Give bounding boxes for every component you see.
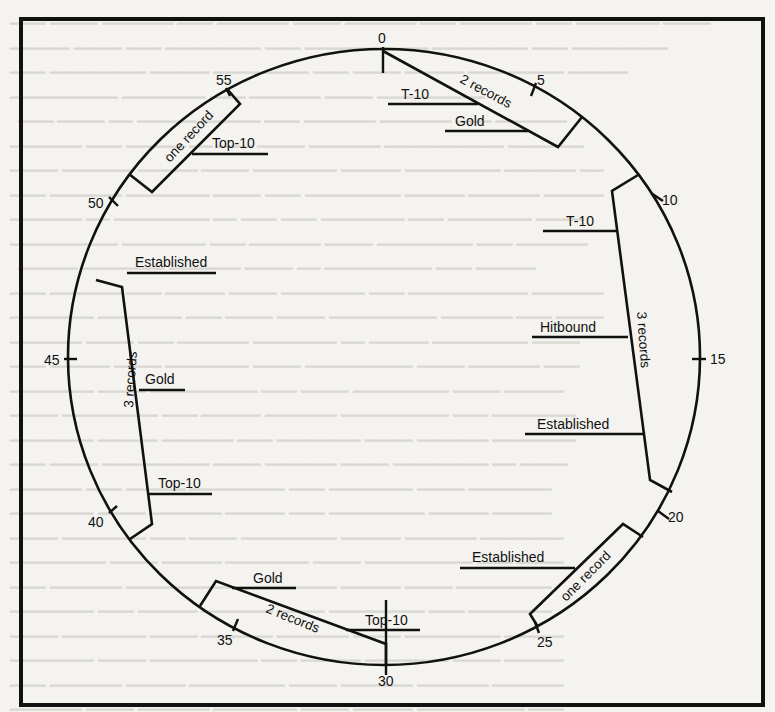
segment-2-item-3-label: Established	[537, 416, 609, 432]
tick-label-45: 45	[44, 352, 60, 368]
segment-5-three-records: 3 records Top-10 Gold Established	[96, 254, 216, 539]
clock-tick-labels: 0 5 10 15 20 25 30 35 40 45 50 55	[44, 30, 726, 689]
segment-4-item-2-label: Gold	[253, 570, 283, 586]
segment-4-two-records: 2 records Top-10 Gold	[200, 570, 420, 664]
tick-label-0: 0	[378, 30, 386, 46]
segment-5-item-3-label: Established	[135, 254, 207, 270]
segment-3-item-1-label: Established	[472, 549, 544, 565]
tick-label-50: 50	[88, 195, 104, 211]
segment-3-one-record: one record Established	[460, 524, 643, 627]
tick-label-15: 15	[710, 351, 726, 367]
segment-4-item-1-label: Top-10	[365, 612, 408, 628]
segment-6-one-record: one record Top-10	[129, 90, 268, 192]
clock-circle	[68, 49, 700, 665]
tick-label-55: 55	[216, 72, 232, 88]
segment-4-count-label: 2 records	[264, 601, 322, 636]
segment-1-count-label: 2 records	[458, 71, 515, 111]
segment-2-three-records: 3 records T-10 Hitbound Established	[525, 175, 672, 492]
format-clock-diagram: 0 5 10 15 20 25 30 35 40 45 50 55 2 reco…	[0, 0, 775, 712]
tick-label-25: 25	[537, 634, 553, 650]
segment-1-item-1-label: T-10	[401, 86, 429, 102]
segment-6-item-1-label: Top-10	[212, 135, 255, 151]
segment-5-item-1-label: Top-10	[158, 475, 201, 491]
segment-5-item-2-label: Gold	[145, 371, 175, 387]
segment-2-item-1-label: T-10	[566, 213, 594, 229]
segment-2-item-2-label: Hitbound	[540, 319, 596, 335]
tick-label-10: 10	[662, 192, 678, 208]
tick-label-40: 40	[88, 514, 104, 530]
scanned-page: ▁▁▁ ▁▁▁▁ ▁▁▁▁▁▁ ▁▁▁ ▁▁▁▁▁▁ ▁▁▁▁ ▁▁▁▁▁▁ ▁…	[0, 0, 775, 712]
tick-label-20: 20	[668, 509, 684, 525]
tick-label-35: 35	[217, 632, 233, 648]
segment-2-count-label: 3 records	[634, 311, 653, 368]
tick-label-5: 5	[537, 72, 545, 88]
segment-1-item-2-label: Gold	[455, 113, 485, 129]
tick-label-30: 30	[378, 673, 394, 689]
